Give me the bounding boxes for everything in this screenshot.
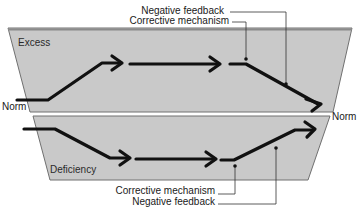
bottom-corrective-mechanism-dot — [233, 164, 237, 168]
homeostasis-diagram: Excess Deficiency Norm Norm Negative fee… — [0, 0, 360, 212]
norm-label-left: Norm — [2, 101, 26, 112]
bottom-corrective-mechanism-label: Corrective mechanism — [116, 185, 215, 196]
excess-zone — [8, 28, 352, 112]
bottom-negative-feedback-label: Negative feedback — [132, 196, 216, 207]
bottom-negative-feedback-dot — [274, 146, 278, 150]
top-corrective-mechanism-label: Corrective mechanism — [130, 15, 229, 26]
top-negative-feedback-dot — [284, 82, 288, 86]
norm-label-right: Norm — [332, 111, 356, 122]
excess-label: Excess — [18, 37, 50, 48]
top-corrective-mechanism-dot — [244, 57, 248, 61]
deficiency-label: Deficiency — [50, 164, 96, 175]
